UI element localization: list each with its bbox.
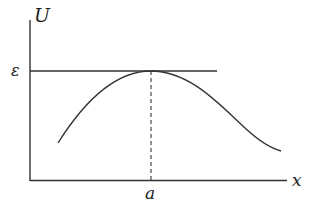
potential-diagram: U ε a x — [0, 0, 312, 223]
energy-level-label: ε — [11, 61, 20, 80]
y-axis-label: U — [34, 4, 51, 26]
x-axis-label: x — [292, 170, 302, 190]
peak-position-label: a — [145, 183, 155, 203]
potential-curve — [58, 71, 281, 151]
